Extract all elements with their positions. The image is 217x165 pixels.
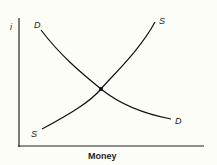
- supply-curve: [42, 22, 155, 129]
- demand-curve: [41, 30, 171, 119]
- demand-label-top: D: [34, 20, 41, 30]
- supply-label-bottom: S: [31, 129, 37, 139]
- equilibrium-point: [99, 87, 103, 91]
- money-market-chart: i D D S S Money: [0, 0, 217, 165]
- y-axis-label: i: [10, 22, 13, 32]
- x-axis-label: Money: [88, 151, 117, 161]
- demand-label-bottom: D: [175, 116, 182, 126]
- supply-label-top: S: [159, 16, 165, 26]
